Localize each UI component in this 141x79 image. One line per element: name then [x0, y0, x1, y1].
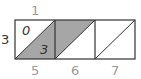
cell-3-diagonal — [95, 20, 135, 59]
digit-label-5: 5 — [31, 63, 39, 78]
cell-1-top-digit: 0 — [22, 23, 30, 38]
cell-1-bottom-digit: 3 — [40, 42, 48, 57]
digit-label-6: 6 — [71, 63, 79, 78]
lattice-diagram: 1 3 0 3 5 6 7 — [0, 0, 141, 79]
multiplier-label: 3 — [1, 32, 9, 47]
carry-label: 1 — [31, 3, 39, 18]
digit-label-7: 7 — [111, 63, 119, 78]
